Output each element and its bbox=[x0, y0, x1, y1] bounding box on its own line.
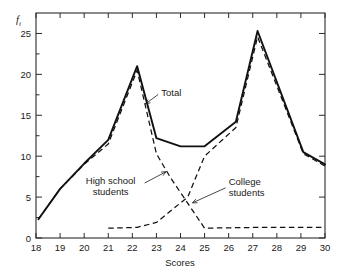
x-axis-ticks-top bbox=[36, 13, 325, 18]
x-tick-label: 27 bbox=[247, 242, 258, 253]
annotation-line: students bbox=[229, 187, 265, 198]
axis-frame bbox=[36, 13, 325, 238]
x-tick-label: 26 bbox=[223, 242, 234, 253]
y-tick-label: 15 bbox=[20, 110, 31, 121]
x-axis-title: Scores bbox=[165, 257, 195, 268]
data-series-layer bbox=[38, 31, 325, 228]
x-tick-label: 18 bbox=[31, 242, 42, 253]
y-axis-title: fi bbox=[16, 14, 21, 28]
x-tick-label: 24 bbox=[175, 242, 186, 253]
y-tick-label: 5 bbox=[26, 192, 31, 203]
x-tick-label: 30 bbox=[320, 242, 331, 253]
annotation-line: Total bbox=[161, 87, 181, 98]
annotation-line: students bbox=[93, 186, 129, 197]
x-axis-tick-labels: 18192021222324252627282930 bbox=[31, 242, 331, 253]
annotation-label-total: Total bbox=[161, 87, 181, 98]
chart-canvas: 18192021222324252627282930 0510152025 Sc… bbox=[0, 0, 351, 274]
y-tick-label: 25 bbox=[20, 28, 31, 39]
annotation-line: College bbox=[229, 176, 261, 187]
y-tick-label: 20 bbox=[20, 69, 31, 80]
x-tick-label: 22 bbox=[127, 242, 138, 253]
x-tick-label: 20 bbox=[79, 242, 90, 253]
x-tick-label: 21 bbox=[103, 242, 114, 253]
annotation-leader-high-school-students bbox=[145, 172, 166, 183]
annotation-label-college-students: Collegestudents bbox=[229, 176, 265, 198]
y-axis-tick-labels: 0510152025 bbox=[20, 28, 31, 244]
plot-frame bbox=[36, 13, 325, 238]
y-tick-label: 10 bbox=[20, 151, 31, 162]
series-total bbox=[38, 31, 325, 219]
annotation-label-high-school-students: High schoolstudents bbox=[86, 175, 136, 197]
y-axis-title-subscript: i bbox=[19, 20, 21, 28]
x-tick-label: 19 bbox=[55, 242, 66, 253]
series-college-students bbox=[108, 37, 325, 228]
x-axis-ticks-bottom bbox=[36, 233, 325, 238]
y-axis-ticks-right bbox=[319, 33, 325, 238]
annotation-leader-college-students bbox=[193, 188, 226, 203]
x-tick-label: 28 bbox=[272, 242, 283, 253]
frequency-polygon-chart: 18192021222324252627282930 0510152025 Sc… bbox=[0, 0, 351, 274]
annotation-leader-total bbox=[146, 94, 159, 103]
y-axis-ticks-left bbox=[36, 33, 42, 238]
annotation-line: High school bbox=[86, 175, 136, 186]
y-tick-label: 0 bbox=[26, 233, 31, 244]
x-tick-label: 25 bbox=[199, 242, 210, 253]
x-tick-label: 23 bbox=[151, 242, 162, 253]
x-tick-label: 29 bbox=[296, 242, 307, 253]
